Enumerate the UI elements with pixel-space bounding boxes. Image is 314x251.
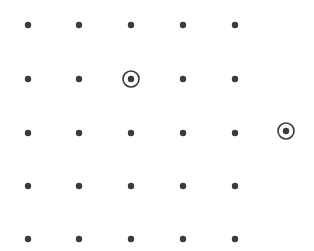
grid-dot-r2-c5: [232, 76, 238, 82]
grid-dot-r1-c1: [25, 22, 31, 28]
grid-dot-r2-c1: [25, 76, 31, 82]
grid-dot-r5-c1: [25, 236, 31, 242]
grid-dot-r2-c2: [76, 76, 82, 82]
grid-dot-r1-c5: [232, 22, 238, 28]
grid-dot-r3-c5: [232, 130, 238, 136]
grid-dot-r2-c3: [128, 76, 134, 82]
grid-dot-r3-c4: [180, 130, 186, 136]
grid-dot-r4-c3: [128, 183, 134, 189]
grid-dot-r3-c1: [25, 130, 31, 136]
grid-dot-r5-c5: [232, 236, 238, 242]
grid-dot-r5-c3: [128, 236, 134, 242]
dot-grid-svg: [0, 0, 314, 251]
grid-dot-r1-c4: [180, 22, 186, 28]
grid-dot-r5-c4: [180, 236, 186, 242]
grid-dot-r2-c4: [180, 76, 186, 82]
grid-dot-r1-c2: [76, 22, 82, 28]
grid-dot-r1-c3: [128, 22, 134, 28]
grid-dot-r4-c5: [232, 183, 238, 189]
grid-dot-r3-c2: [76, 130, 82, 136]
grid-dot-r4-c4: [180, 183, 186, 189]
grid-dot-r5-c2: [76, 236, 82, 242]
grid-dot-r4-c1: [25, 183, 31, 189]
dot-grid-diagram: [0, 0, 314, 251]
circled-point-dot-2: [283, 128, 289, 134]
grid-dot-r4-c2: [76, 183, 82, 189]
grid-dot-r3-c3: [128, 130, 134, 136]
